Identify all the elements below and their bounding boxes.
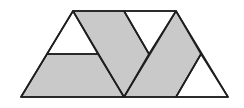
trapezoid-diagram [0, 0, 244, 108]
